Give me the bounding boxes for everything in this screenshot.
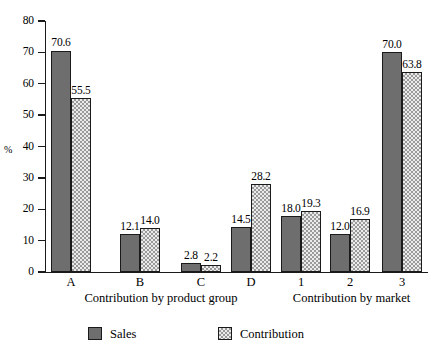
chart-legend: SalesContribution [0, 326, 440, 346]
bar-chart: % 01020304050607080 70.655.512.114.02.82… [0, 0, 440, 357]
bar-sales-A [51, 51, 71, 273]
legend-label: Contribution [240, 327, 304, 341]
legend-swatch-icon [88, 327, 102, 340]
bar-value-label: 19.3 [294, 198, 328, 210]
bar-sales-B [120, 234, 140, 272]
legend-swatch-icon [218, 327, 232, 340]
x-axis-label-3: 3 [382, 276, 422, 289]
legend-label: Sales [110, 327, 136, 341]
x-axis-label-A: A [51, 276, 91, 289]
bar-sales-C [181, 263, 201, 272]
plot-area: % 01020304050607080 70.655.512.114.02.82… [0, 0, 440, 357]
x-axis-label-C: C [181, 276, 221, 289]
bar-value-label: 55.5 [64, 85, 98, 97]
bar-contribution-C [201, 265, 221, 272]
bar-value-label: 63.8 [395, 59, 429, 71]
bar-contribution-D [251, 184, 271, 272]
bar-value-label: 14.0 [133, 215, 167, 227]
bar-sales-3 [382, 52, 402, 272]
bar-value-label: 70.0 [375, 39, 409, 51]
bar-contribution-B [140, 228, 160, 272]
group-label-1: Contribution by product group [51, 291, 271, 305]
bar-value-label: 2.2 [194, 252, 228, 264]
x-axis-line [45, 272, 428, 273]
bar-sales-2 [330, 234, 350, 272]
group-label-2: Contribution by market [242, 291, 440, 305]
x-axis-label-B: B [120, 276, 160, 289]
bar-value-label: 70.6 [44, 37, 78, 49]
bar-contribution-3 [402, 72, 422, 272]
x-axis-label-2: 2 [330, 276, 370, 289]
bar-value-label: 16.9 [343, 206, 377, 218]
bar-contribution-1 [301, 211, 321, 272]
bar-sales-D [231, 227, 251, 272]
x-axis-label-1: 1 [281, 276, 321, 289]
bar-contribution-2 [350, 219, 370, 272]
bars-layer: 70.655.512.114.02.82.214.528.218.019.312… [0, 0, 440, 272]
x-axis-label-D: D [231, 276, 271, 289]
bar-sales-1 [281, 216, 301, 272]
bar-value-label: 28.2 [244, 171, 278, 183]
bar-contribution-A [71, 98, 91, 272]
